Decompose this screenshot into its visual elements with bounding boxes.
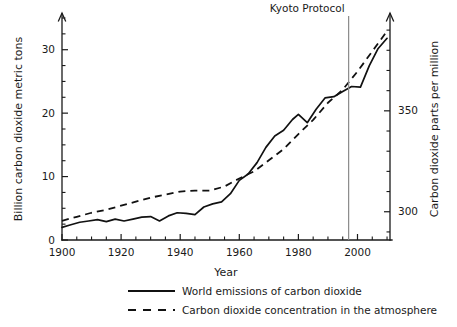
data-series-group: [62, 31, 387, 227]
y2-axis-title: Carbon dioxide parts per million: [428, 41, 441, 218]
x-axis-tick-label: 1920: [108, 246, 135, 258]
y-axis-title: Billion carbon dioxide metric tons: [12, 37, 25, 222]
series-line-1: [62, 38, 387, 227]
x-axis-tick-label: 2000: [344, 246, 371, 258]
x-axis-tick-label: 1980: [285, 246, 312, 258]
y-axis-tick-label: 0: [48, 234, 55, 246]
axis-labels-group: YearBillion carbon dioxide metric tonsCa…: [12, 37, 441, 279]
legend-label-1: World emissions of carbon dioxide: [182, 285, 362, 297]
x-axis-tick-label: 1900: [49, 246, 76, 258]
y-axis-tick-label: 20: [42, 107, 55, 119]
kyoto-protocol-label: Kyoto Protocol: [270, 2, 345, 14]
legend-label-2: Carbon dioxide concentration in the atmo…: [182, 304, 437, 316]
x-axis-tick-label: 1960: [226, 246, 253, 258]
chart-legend: World emissions of carbon dioxideCarbon …: [128, 285, 437, 316]
chart-plot-area: 1900192019401960198020000102030300350 Ky…: [0, 0, 457, 327]
axes-group: 1900192019401960198020000102030300350: [42, 13, 418, 258]
y-axis-tick-label: 30: [42, 43, 55, 55]
co2-chart-figure: 1900192019401960198020000102030300350 Ky…: [0, 0, 457, 327]
x-axis-title: Year: [213, 266, 238, 279]
y2-axis-tick-label: 350: [398, 104, 418, 116]
x-axis-tick-label: 1940: [167, 246, 194, 258]
series-line-2: [62, 31, 387, 221]
y-axis-tick-label: 10: [42, 170, 55, 182]
y2-axis-tick-label: 300: [398, 205, 418, 217]
